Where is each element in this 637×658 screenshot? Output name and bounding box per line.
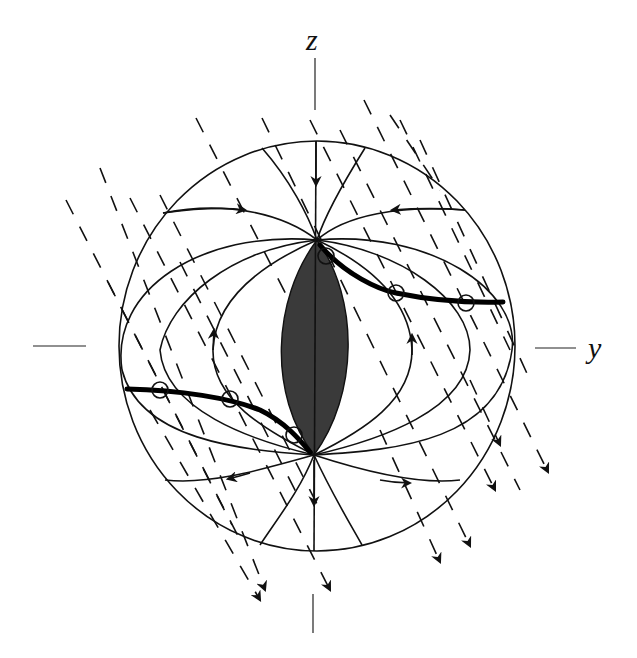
diagram-canvas: z y — [0, 0, 637, 658]
y-axis-label: y — [585, 331, 602, 364]
z-axis-label: z — [305, 23, 318, 56]
